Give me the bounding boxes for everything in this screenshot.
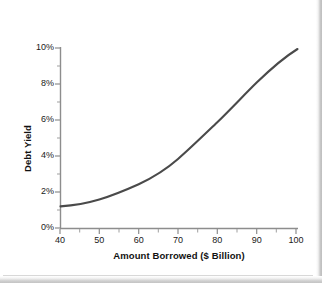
y-minor-ticks (57, 66, 60, 210)
y-tick-label-8: 8% (24, 78, 54, 88)
x-tick-label-80: 80 (202, 235, 232, 245)
x-major-ticks (60, 229, 296, 234)
x-tick-label-100: 100 (281, 235, 311, 245)
x-tick-label-70: 70 (163, 235, 193, 245)
debt-yield-curve (61, 49, 298, 206)
y-tick-label-6: 6% (24, 114, 54, 124)
y-tick-label-10: 10% (24, 42, 54, 52)
y-axis-title: Debt Yield (22, 125, 33, 172)
x-tick-label-60: 60 (124, 235, 154, 245)
page-edge-bottom (0, 276, 322, 283)
x-axis-title: Amount Borrowed ($ Billion) (60, 250, 298, 261)
x-tick-label-40: 40 (45, 235, 75, 245)
x-tick-label-90: 90 (242, 235, 272, 245)
x-tick-label-50: 50 (84, 235, 114, 245)
chart-figure: 10% 8% 6% 4% 2% 0% 40 50 60 70 80 90 100… (0, 0, 322, 283)
y-tick-label-2: 2% (24, 186, 54, 196)
page-edge-right (316, 0, 322, 283)
y-tick-label-0: 0% (24, 222, 54, 232)
